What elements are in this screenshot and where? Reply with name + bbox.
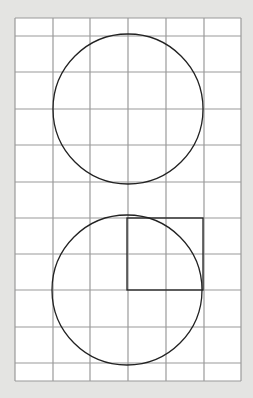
grid-figure [0, 0, 253, 398]
